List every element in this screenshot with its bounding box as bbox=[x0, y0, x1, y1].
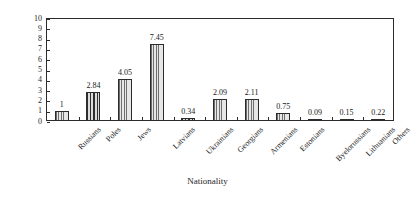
bar-group: 2.84 bbox=[78, 18, 110, 121]
y-axis-tick-label: 7 bbox=[38, 44, 42, 54]
x-axis-category-label: Ukrainians bbox=[205, 125, 236, 156]
y-axis-tick-label: 2 bbox=[38, 96, 42, 106]
x-axis-category-label-text: Estonians bbox=[298, 125, 326, 153]
bar-group: 0.34 bbox=[173, 18, 205, 121]
y-axis-tick-label: 5 bbox=[38, 65, 42, 75]
x-axis-category-label: Russians bbox=[76, 125, 102, 151]
x-axis-category-label-text: Russians bbox=[76, 125, 102, 151]
bar[interactable] bbox=[340, 119, 354, 121]
bar-value-label: 0.22 bbox=[371, 108, 385, 117]
x-axis-category-label-text: Ukrainians bbox=[205, 125, 236, 156]
bar[interactable] bbox=[245, 99, 259, 121]
x-axis-category-label-text: Armenians bbox=[268, 125, 299, 156]
y-axis-tick-label: 8 bbox=[38, 34, 42, 44]
bar-group: 1 bbox=[46, 18, 78, 121]
bar-value-label: 1 bbox=[60, 100, 64, 109]
x-axis-category-label-text: Byelorussians bbox=[334, 125, 372, 163]
y-axis-tick-label: 4 bbox=[38, 75, 42, 85]
x-axis-category-label-text: Latvians bbox=[171, 125, 197, 151]
x-axis-category-label: Armenians bbox=[268, 125, 299, 156]
bar-chart: Percentage 012345678910 12.844.057.450.3… bbox=[0, 0, 415, 200]
bar-group: 2.11 bbox=[236, 18, 268, 121]
bar-value-label: 0.15 bbox=[340, 108, 354, 117]
bar-value-label: 4.05 bbox=[118, 68, 132, 77]
x-axis-category-label: Byelorussians bbox=[334, 125, 372, 163]
y-axis-tick-label: 6 bbox=[38, 55, 42, 65]
x-axis-category-label: Poles bbox=[105, 125, 124, 144]
bar-group: 0.22 bbox=[362, 18, 394, 121]
bar-group: 7.45 bbox=[141, 18, 173, 121]
y-axis-tick-label: 3 bbox=[38, 86, 42, 96]
x-axis-category-label-text: Jews bbox=[136, 125, 153, 142]
bar-group: 4.05 bbox=[109, 18, 141, 121]
bar-value-label: 2.84 bbox=[86, 81, 100, 90]
x-axis-category-label-text: Poles bbox=[105, 125, 124, 144]
bar[interactable] bbox=[181, 118, 195, 122]
bar[interactable] bbox=[150, 44, 164, 121]
x-axis-category-label: Jews bbox=[136, 125, 153, 142]
x-axis-category-label-text: Georgians bbox=[236, 125, 266, 155]
x-axis-category-label: Latvians bbox=[171, 125, 197, 151]
y-axis-tick-label: 10 bbox=[34, 14, 42, 24]
y-axis-tick-label: 0 bbox=[38, 117, 42, 127]
bar[interactable] bbox=[55, 111, 69, 121]
x-axis-category-label: Georgians bbox=[236, 125, 266, 155]
bar-group: 0.09 bbox=[299, 18, 331, 121]
bars-layer: 12.844.057.450.342.092.110.750.090.150.2… bbox=[46, 18, 394, 121]
bar-value-label: 0.09 bbox=[308, 108, 322, 117]
bar-value-label: 0.75 bbox=[276, 102, 290, 111]
bar[interactable] bbox=[308, 119, 322, 121]
y-axis-tick-label: 9 bbox=[38, 24, 42, 34]
bar-group: 0.15 bbox=[331, 18, 363, 121]
bar-value-label: 0.34 bbox=[181, 107, 195, 116]
x-axis-category-label: Estonians bbox=[298, 125, 326, 153]
bar-value-label: 2.09 bbox=[213, 88, 227, 97]
bar-group: 0.75 bbox=[267, 18, 299, 121]
bar-value-label: 7.45 bbox=[150, 33, 164, 42]
bar[interactable] bbox=[213, 99, 227, 121]
bar[interactable] bbox=[276, 113, 290, 121]
bar[interactable] bbox=[371, 119, 385, 121]
bar[interactable] bbox=[86, 92, 100, 121]
x-axis-title: Nationality bbox=[0, 176, 415, 186]
bar[interactable] bbox=[118, 79, 132, 121]
bar-group: 2.09 bbox=[204, 18, 236, 121]
y-axis-tick-label: 1 bbox=[38, 106, 42, 116]
bar-value-label: 2.11 bbox=[245, 88, 259, 97]
x-axis-labels: RussiansPolesJewsLatviansUkrainiansGeorg… bbox=[46, 123, 394, 173]
